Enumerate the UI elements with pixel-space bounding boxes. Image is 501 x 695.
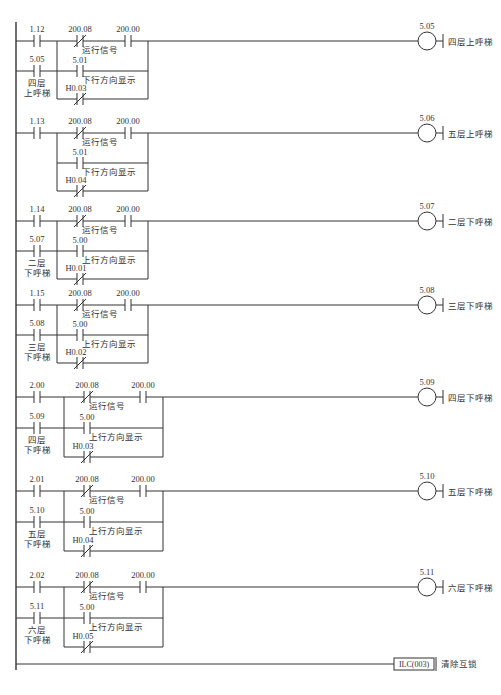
contact-direction-address: 5.01 bbox=[73, 55, 88, 65]
output-coil-label: 六层下呼梯 bbox=[448, 583, 493, 593]
contact-hold-address: H0.04 bbox=[72, 535, 94, 545]
contact-hold-address: H0.02 bbox=[65, 347, 86, 357]
contact-run-signal-label: 运行信号 bbox=[82, 137, 118, 147]
contact-parallel-address: 5.08 bbox=[30, 318, 45, 328]
contact-direction-address: 5.00 bbox=[80, 602, 95, 612]
contact-run-signal-label: 运行信号 bbox=[89, 401, 125, 411]
contact-hold-address: H0.01 bbox=[65, 263, 86, 273]
contact-parallel-address: 5.07 bbox=[30, 234, 45, 244]
contact-parallel-label-line2: 下呼梯 bbox=[24, 268, 51, 278]
output-coil bbox=[418, 388, 436, 406]
output-coil bbox=[418, 578, 436, 596]
output-coil-address: 5.05 bbox=[420, 21, 435, 31]
contact-direction-label: 上行方向显示 bbox=[82, 339, 136, 349]
output-coil bbox=[418, 482, 436, 500]
contact-run-signal-address: 200.08 bbox=[68, 116, 91, 126]
contact-parallel-label-line1: 四层 bbox=[28, 78, 46, 88]
contact-series-address: 200.00 bbox=[116, 116, 139, 126]
contact-series-address: 200.00 bbox=[116, 204, 139, 214]
rung-5: 2.005.09四层下呼梯200.08运行信号200.005.00上行方向显示H… bbox=[16, 377, 493, 463]
contact-run-signal-label: 运行信号 bbox=[89, 591, 125, 601]
contact-direction-address: 5.01 bbox=[73, 147, 88, 157]
contact-parallel-label-line2: 下呼梯 bbox=[24, 539, 51, 549]
contact-main-address: 2.01 bbox=[30, 474, 45, 484]
contact-series-address: 200.00 bbox=[116, 24, 139, 34]
contact-hold-address: H0.05 bbox=[72, 631, 93, 641]
output-coil-label: 二层下呼梯 bbox=[448, 217, 493, 227]
output-coil-address: 5.09 bbox=[420, 377, 435, 387]
contact-series-address: 200.00 bbox=[116, 288, 139, 298]
output-coil bbox=[418, 124, 436, 142]
rung-4: 1.155.08三层下呼梯200.08运行信号200.005.00上行方向显示H… bbox=[16, 285, 493, 369]
output-coil-address: 5.06 bbox=[420, 113, 435, 123]
contact-run-signal-address: 200.08 bbox=[75, 380, 98, 390]
contact-main-address: 1.14 bbox=[30, 204, 46, 214]
contact-parallel-label-line2: 上呼梯 bbox=[24, 88, 51, 98]
rung-7: 2.025.11六层下呼梯200.08运行信号200.005.00上行方向显示H… bbox=[16, 567, 493, 653]
output-coil-label: 五层下呼梯 bbox=[448, 487, 493, 497]
contact-run-signal-label: 运行信号 bbox=[82, 45, 118, 55]
contact-parallel-label-line2: 下呼梯 bbox=[24, 352, 51, 362]
contact-run-signal-address: 200.08 bbox=[68, 204, 91, 214]
contact-run-signal-address: 200.08 bbox=[68, 288, 91, 298]
contact-series-address: 200.00 bbox=[131, 380, 154, 390]
contact-run-signal-label: 运行信号 bbox=[82, 225, 118, 235]
contact-direction-label: 上行方向显示 bbox=[89, 432, 143, 442]
ilc-instruction-text: ILC(003) bbox=[399, 660, 430, 669]
contact-run-signal-label: 运行信号 bbox=[89, 495, 125, 505]
contact-hold-address: H0.03 bbox=[65, 83, 86, 93]
contact-parallel-label-line1: 五层 bbox=[28, 529, 46, 539]
output-coil-label: 四层上呼梯 bbox=[448, 37, 493, 47]
output-coil-address: 5.11 bbox=[420, 567, 435, 577]
contact-main-address: 1.15 bbox=[30, 288, 45, 298]
contact-parallel-address: 5.05 bbox=[30, 54, 45, 64]
rungs-container: 1.125.05四层上呼梯200.08运行信号200.005.01下行方向显示H… bbox=[16, 21, 493, 653]
output-coil-address: 5.10 bbox=[420, 471, 435, 481]
contact-series-address: 200.00 bbox=[131, 570, 154, 580]
contact-parallel-label-line1: 三层 bbox=[28, 342, 46, 352]
contact-parallel-label-line2: 下呼梯 bbox=[24, 445, 51, 455]
contact-parallel-label-line2: 下呼梯 bbox=[24, 635, 51, 645]
contact-run-signal-address: 200.08 bbox=[75, 474, 98, 484]
contact-direction-address: 5.00 bbox=[73, 235, 88, 245]
contact-parallel-label-line1: 二层 bbox=[28, 258, 46, 268]
contact-direction-label: 下行方向显示 bbox=[82, 75, 136, 85]
rung-3: 1.145.07二层下呼梯200.08运行信号200.005.00上行方向显示H… bbox=[16, 201, 493, 285]
contact-direction-label: 上行方向显示 bbox=[89, 622, 143, 632]
contact-direction-label: 上行方向显示 bbox=[82, 255, 136, 265]
contact-series-address: 200.00 bbox=[131, 474, 154, 484]
contact-run-signal-address: 200.08 bbox=[68, 24, 91, 34]
contact-main-address: 1.13 bbox=[30, 116, 45, 126]
contact-direction-address: 5.00 bbox=[80, 412, 95, 422]
contact-run-signal-address: 200.08 bbox=[75, 570, 98, 580]
ilc-label: 清除互锁 bbox=[441, 659, 477, 669]
output-coil bbox=[418, 212, 436, 230]
output-coil-address: 5.08 bbox=[420, 285, 435, 295]
output-coil-label: 五层上呼梯 bbox=[448, 129, 493, 139]
output-coil-address: 5.07 bbox=[420, 201, 435, 211]
contact-hold-address: H0.03 bbox=[72, 441, 93, 451]
contact-main-address: 2.02 bbox=[30, 570, 45, 580]
ladder-diagram: 1.125.05四层上呼梯200.08运行信号200.005.01下行方向显示H… bbox=[0, 0, 501, 695]
contact-parallel-address: 5.09 bbox=[30, 411, 45, 421]
contact-parallel-label-line1: 六层 bbox=[28, 625, 46, 635]
contact-main-address: 1.12 bbox=[30, 24, 45, 34]
ilc-rung: ILC(003) 清除互锁 bbox=[16, 657, 477, 671]
contact-direction-label: 下行方向显示 bbox=[82, 167, 136, 177]
rung-2: 1.13200.08运行信号200.005.01下行方向显示H0.045.06五… bbox=[16, 113, 493, 197]
contact-hold-address: H0.04 bbox=[65, 175, 87, 185]
contact-direction-address: 5.00 bbox=[80, 506, 95, 516]
contact-run-signal-label: 运行信号 bbox=[82, 309, 118, 319]
contact-direction-label: 上行方向显示 bbox=[89, 526, 143, 536]
output-coil bbox=[418, 32, 436, 50]
output-coil bbox=[418, 296, 436, 314]
contact-parallel-address: 5.10 bbox=[30, 505, 45, 515]
contact-main-address: 2.00 bbox=[30, 380, 45, 390]
contact-parallel-address: 5.11 bbox=[30, 601, 45, 611]
rung-6: 2.015.10五层下呼梯200.08运行信号200.005.00上行方向显示H… bbox=[16, 471, 493, 557]
contact-parallel-label-line1: 四层 bbox=[28, 435, 46, 445]
contact-direction-address: 5.00 bbox=[73, 319, 88, 329]
rung-1: 1.125.05四层上呼梯200.08运行信号200.005.01下行方向显示H… bbox=[16, 21, 493, 105]
output-coil-label: 四层下呼梯 bbox=[448, 393, 493, 403]
output-coil-label: 三层下呼梯 bbox=[448, 301, 493, 311]
